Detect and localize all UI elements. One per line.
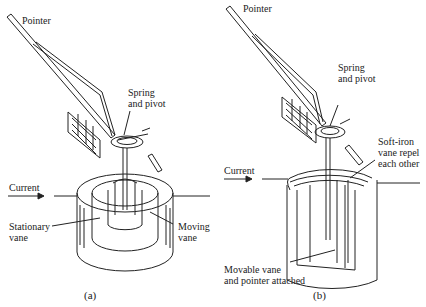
- caption-a: (a): [84, 289, 96, 301]
- diagram-drawing: [0, 0, 426, 307]
- pointer-label-b: Pointer: [243, 3, 272, 14]
- stationary-vane-label-line2: vane: [9, 232, 28, 243]
- soft-iron-label-line2: vane repel: [378, 147, 419, 158]
- spring-pivot-label-a-line1: Spring: [128, 87, 155, 98]
- current-label-b: Current: [224, 165, 255, 176]
- spring-pivot-label-b-line2: and pivot: [338, 73, 376, 84]
- soft-iron-label-line3: each other: [378, 158, 419, 169]
- caption-b: (b): [313, 289, 326, 301]
- moving-vane-label-line2: vane: [178, 232, 197, 243]
- moving-vane-label-line1: Moving: [178, 221, 210, 232]
- current-label-a: Current: [9, 182, 40, 193]
- soft-iron-label-line1: Soft-iron: [378, 136, 414, 147]
- stationary-vane-label-line1: Stationary: [9, 221, 50, 232]
- movable-vane-label-line2: and pointer attached: [224, 275, 305, 286]
- pointer-label-a: Pointer: [22, 15, 51, 26]
- movable-vane-label-line1: Movable vane: [224, 264, 281, 275]
- spring-pivot-label-b-line1: Spring: [338, 62, 365, 73]
- spring-pivot-label-a-line2: and pivot: [128, 98, 166, 109]
